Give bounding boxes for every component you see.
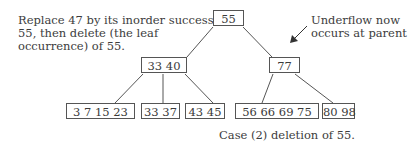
caption: Case (2) deletion of 55. <box>219 129 355 143</box>
edge-77-leaf4 <box>262 74 273 103</box>
leaf-node-1: 3 7 15 23 <box>66 103 135 119</box>
arrow-icon <box>290 26 307 43</box>
internal-node-left: 33 40 <box>141 57 187 73</box>
leaf-node-2: 33 37 <box>141 103 180 119</box>
root-node: 55 <box>213 10 244 26</box>
edge-3340-leaf3 <box>185 74 213 103</box>
leaf-node-3: 43 45 <box>185 103 225 119</box>
internal-node-right: 77 <box>269 57 300 73</box>
leaf-node-4: 56 66 69 75 <box>235 103 319 119</box>
edge-3340-leaf1 <box>115 74 143 103</box>
edge-root-left <box>187 27 213 57</box>
leaf-node-5: 80 98 <box>322 103 355 119</box>
left-note-line-3: occurrence) of 55. <box>18 40 125 54</box>
edge-root-right <box>243 27 272 57</box>
edge-77-leaf5 <box>295 74 333 103</box>
right-note-line-2: occurs at parent <box>311 27 407 41</box>
